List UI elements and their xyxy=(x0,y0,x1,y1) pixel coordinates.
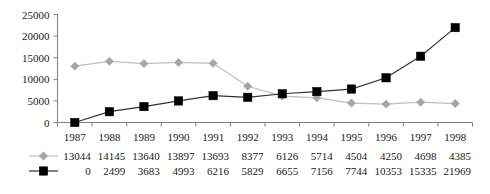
data-point-marker xyxy=(209,91,217,99)
data-table-cell: 4504 xyxy=(345,150,368,162)
x-axis-tick-label: 1994 xyxy=(306,131,329,143)
data-point-marker xyxy=(105,57,113,65)
data-table-cell: 7744 xyxy=(345,165,368,177)
data-point-marker xyxy=(382,100,390,108)
data-point-marker xyxy=(416,52,424,60)
y-axis-tick-label: 25000 xyxy=(22,9,50,21)
x-axis-tick-label: 1995 xyxy=(340,131,363,143)
series-line-series-1 xyxy=(75,61,455,104)
data-table-group: 1304414145136401389713693837761265714450… xyxy=(63,150,471,177)
data-table-cell: 21969 xyxy=(444,165,472,177)
data-point-marker xyxy=(174,97,182,105)
x-axis-tick-label: 1989 xyxy=(133,131,156,143)
data-point-marker xyxy=(451,23,459,31)
data-table-cell: 7156 xyxy=(311,165,334,177)
data-point-marker xyxy=(416,98,424,106)
data-table-cell: 10353 xyxy=(374,165,402,177)
data-table-cell: 0 xyxy=(85,165,91,177)
data-table-cell: 4385 xyxy=(449,150,472,162)
data-point-marker xyxy=(313,87,321,95)
y-axis-tick-label: 15000 xyxy=(22,52,50,64)
x-axis-tick-label: 1997 xyxy=(410,131,433,143)
data-point-marker xyxy=(105,108,113,116)
axis-lines xyxy=(58,14,473,123)
data-point-marker xyxy=(174,58,182,66)
data-table-cell: 6126 xyxy=(276,150,299,162)
y-axis-tick-label: 5000 xyxy=(28,95,51,107)
data-table-cell: 8377 xyxy=(242,150,265,162)
x-axis-tick-label: 1990 xyxy=(168,131,191,143)
x-axis-tick-label: 1993 xyxy=(271,131,294,143)
data-point-marker xyxy=(382,74,390,82)
data-table-cell: 15335 xyxy=(409,165,437,177)
data-table-cell: 14145 xyxy=(98,150,126,162)
data-table-cell: 4250 xyxy=(380,150,403,162)
series-marker-group xyxy=(71,23,460,126)
line-chart: 0500010000150002000025000 19871988198919… xyxy=(0,0,490,194)
data-table-cell: 3683 xyxy=(138,165,161,177)
y-axis-tick-group: 0500010000150002000025000 xyxy=(22,9,58,129)
data-point-marker xyxy=(71,62,79,70)
data-table-cell: 13897 xyxy=(167,150,195,162)
data-point-marker xyxy=(347,85,355,93)
x-axis-tick-label: 1996 xyxy=(375,131,398,143)
data-point-marker xyxy=(244,93,252,101)
x-axis-tick-label: 1988 xyxy=(98,131,121,143)
data-point-marker xyxy=(244,82,252,90)
data-table-cell: 2499 xyxy=(103,165,126,177)
data-table-cell: 5714 xyxy=(311,150,334,162)
data-table-cell: 13640 xyxy=(132,150,160,162)
data-table-cell: 13693 xyxy=(202,150,230,162)
data-point-marker xyxy=(451,99,459,107)
data-point-marker xyxy=(209,59,217,67)
y-axis-tick-label: 10000 xyxy=(22,73,50,85)
x-axis-tick-label: 1998 xyxy=(444,131,467,143)
data-table-cell: 4698 xyxy=(415,150,438,162)
chart-container: 0500010000150002000025000 19871988198919… xyxy=(0,0,490,194)
data-table-cell: 13044 xyxy=(63,150,91,162)
series-line-series-2 xyxy=(75,28,455,123)
series-line-group xyxy=(75,28,455,123)
y-axis-tick-label: 20000 xyxy=(22,30,50,42)
x-axis-label-group: 1987198819891990199119921993199419951996… xyxy=(64,131,467,143)
data-table-cell: 6216 xyxy=(207,165,230,177)
x-axis-tick-label: 1987 xyxy=(64,131,87,143)
data-point-marker xyxy=(71,118,79,126)
data-point-marker xyxy=(278,90,286,98)
data-table-cell: 4993 xyxy=(172,165,195,177)
data-table-cell: 6655 xyxy=(276,165,299,177)
data-point-marker xyxy=(140,59,148,67)
x-axis-tick-label: 1991 xyxy=(202,131,224,143)
legend-marker-square-icon xyxy=(39,167,47,175)
x-axis-tick-group xyxy=(58,123,473,127)
y-axis-tick-label: 0 xyxy=(44,117,50,129)
data-point-marker xyxy=(347,99,355,107)
legend-marker-diamond-icon xyxy=(39,152,47,160)
data-table-cell: 5829 xyxy=(242,165,265,177)
data-point-marker xyxy=(140,102,148,110)
x-axis-tick-label: 1992 xyxy=(237,131,259,143)
legend-group xyxy=(29,152,58,175)
